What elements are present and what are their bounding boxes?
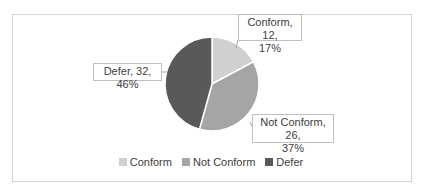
chart-legend: Conform Not Conform Defer (0, 156, 422, 168)
legend-label: Not Conform (193, 156, 255, 168)
label-percent: 17% (242, 42, 298, 55)
legend-item-defer: Defer (265, 156, 303, 168)
legend-swatch-defer (265, 158, 273, 166)
legend-swatch-not-conform (182, 158, 190, 166)
label-percent: 37% (256, 142, 330, 155)
legend-swatch-conform (119, 158, 127, 166)
legend-item-not-conform: Not Conform (182, 156, 255, 168)
data-label-not-conform: Not Conform, 26, 37% (252, 114, 334, 143)
label-text: Defer, 32, 46% (97, 65, 158, 91)
data-label-conform: Conform, 12, 17% (238, 14, 302, 41)
label-text: Conform, 12, (242, 16, 298, 42)
legend-item-conform: Conform (119, 156, 172, 168)
data-label-defer: Defer, 32, 46% (93, 63, 162, 81)
label-text: Not Conform, 26, (256, 116, 330, 142)
legend-label: Conform (130, 156, 172, 168)
legend-label: Defer (276, 156, 303, 168)
